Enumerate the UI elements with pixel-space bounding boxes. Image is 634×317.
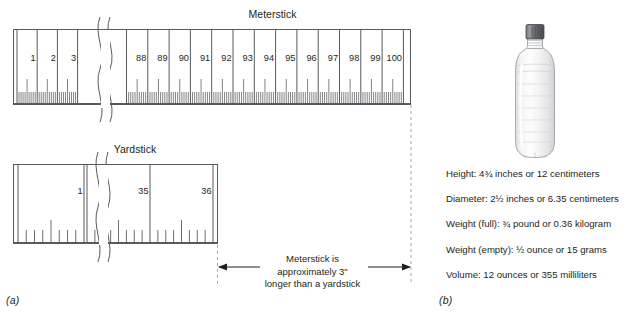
meterstick: 123888990919293949596979899100 xyxy=(13,29,411,105)
spec-volume: Volume: 12 ounces or 355 milliliters xyxy=(446,269,634,280)
dimension-caption: Meterstick is approximately 3" longer th… xyxy=(225,253,400,291)
bottle-spec-list: Height: 4¾ inches or 12 centimeters Diam… xyxy=(446,168,634,280)
meterstick-label-92: 92 xyxy=(221,53,231,63)
meterstick-label-96: 96 xyxy=(306,53,316,63)
meterstick-label-97: 97 xyxy=(328,53,338,63)
meterstick-label-2: 2 xyxy=(51,53,56,63)
meterstick-label-91: 91 xyxy=(200,53,210,63)
dimension-caption-line-2: approximately 3" xyxy=(225,266,400,279)
panel-b-label: (b) xyxy=(439,294,452,306)
meterstick-label-100: 100 xyxy=(387,53,402,63)
spec-weight-full: Weight (full): ¾ pound or 0.36 kilogram xyxy=(446,218,634,229)
spec-height: Height: 4¾ inches or 12 centimeters xyxy=(446,168,634,179)
meterstick-label-94: 94 xyxy=(264,53,274,63)
yardstick-title: Yardstick xyxy=(60,143,210,155)
yardstick-scale: 13536 xyxy=(14,165,217,243)
meterstick-label-3: 3 xyxy=(71,53,76,63)
meterstick-label-93: 93 xyxy=(243,53,253,63)
meterstick-label-89: 89 xyxy=(157,53,167,63)
meterstick-label-1: 1 xyxy=(31,53,36,63)
meterstick-label-88: 88 xyxy=(136,53,146,63)
panel-a-label: (a) xyxy=(6,294,19,306)
dimension-caption-line-1: Meterstick is xyxy=(225,253,400,266)
meterstick-label-98: 98 xyxy=(349,53,359,63)
meterstick-title: Meterstick xyxy=(140,8,405,20)
meterstick-label-99: 99 xyxy=(370,53,380,63)
yardstick-label-1: 1 xyxy=(77,186,82,196)
dimension-caption-line-3: longer than a yardstick xyxy=(225,278,400,291)
meterstick-label-95: 95 xyxy=(285,53,295,63)
meterstick-scale: 123888990919293949596979899100 xyxy=(14,30,410,104)
spec-diameter: Diameter: 2½ inches or 6.35 centimeters xyxy=(446,193,634,204)
bottle-icon xyxy=(500,22,570,162)
yardstick-label-35: 35 xyxy=(138,186,148,196)
figure-root: Meterstick 12388899091929394959697989910… xyxy=(0,0,634,317)
water-bottle-illustration xyxy=(500,22,570,162)
yardstick: 13536 xyxy=(13,164,218,244)
meterstick-label-90: 90 xyxy=(179,53,189,63)
spec-weight-empty: Weight (empty): ½ ounce or 15 grams xyxy=(446,244,634,255)
bottle-cap-highlight xyxy=(528,26,531,37)
